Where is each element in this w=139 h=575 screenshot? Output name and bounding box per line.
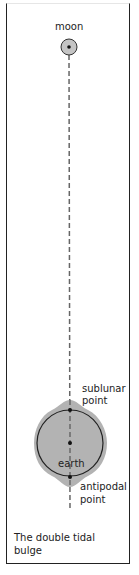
sublunar-label-line1: sublunar — [82, 383, 126, 395]
earth-label: earth — [58, 458, 85, 470]
antipodal-label-line2: point — [80, 494, 106, 506]
sublunar-point-dot — [68, 408, 72, 412]
antipodal-label-line1: antipodal — [80, 481, 127, 493]
moon-label: moon — [55, 21, 83, 33]
antipodal-point-dot — [68, 475, 72, 479]
earth-center-dot — [68, 441, 72, 445]
diagram-caption: The double tidal bulge — [14, 531, 126, 557]
moon-center-dot — [67, 45, 71, 49]
sublunar-label-line2: point — [82, 395, 108, 407]
